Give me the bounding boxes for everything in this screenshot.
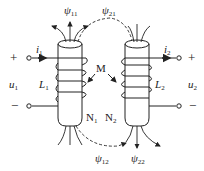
- i2-label: i2: [164, 43, 171, 57]
- N2-label: N2: [105, 111, 117, 125]
- mutual-arrow-right: [108, 74, 116, 82]
- left-plus-label: +: [10, 50, 17, 65]
- terminal-right-minus: [177, 104, 181, 108]
- psi11-label: ψ11: [64, 4, 78, 18]
- flux-lines-bottom-left: [58, 126, 126, 146]
- mutual-inductance-label: M: [96, 62, 106, 74]
- u1-label: u1: [9, 78, 19, 92]
- N1-label: N1: [86, 111, 98, 125]
- coupled-inductor-diagram: + − i1 u1 L1 N1 + − i2 u2 L2 N2 M ψ11 ψ2…: [0, 0, 204, 171]
- terminal-right-plus: [177, 56, 181, 60]
- L2-label: L2: [154, 78, 165, 92]
- flux-lines-top-left: [52, 18, 132, 42]
- flux-lines-bottom-right: [126, 126, 160, 148]
- L1-label: L1: [38, 78, 49, 92]
- i1-label: i1: [36, 43, 43, 57]
- psi22-label: ψ22: [131, 152, 145, 166]
- terminal-left-plus: [27, 56, 31, 60]
- psi12-label: ψ12: [95, 152, 109, 166]
- psi21-label: ψ21: [102, 4, 116, 18]
- right-core: [125, 40, 149, 126]
- u2-label: u2: [188, 78, 198, 92]
- flux-lines-top-right: [128, 24, 150, 42]
- terminal-left-minus: [27, 104, 31, 108]
- left-minus-label: −: [11, 98, 18, 113]
- left-core: [58, 40, 82, 126]
- right-plus-label: +: [188, 50, 195, 65]
- right-minus-label: −: [189, 98, 196, 113]
- mutual-arrow-left: [88, 74, 95, 82]
